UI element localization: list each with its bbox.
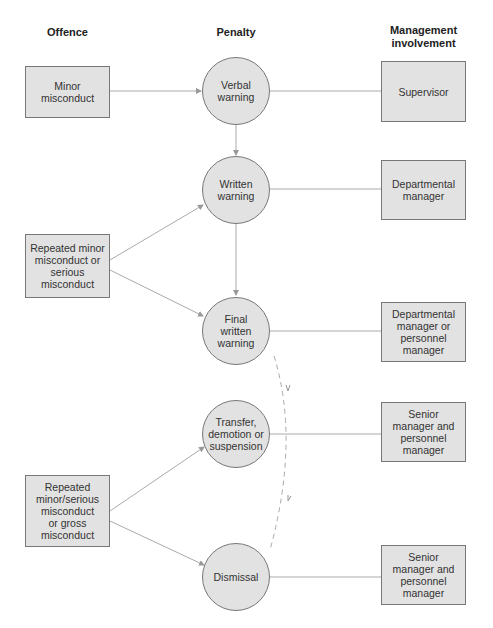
offence-minor: Minor misconduct [25,66,110,118]
offence-gross: Repeated minor/serious misconduct or gro… [25,475,110,547]
offence-repeated-serious: Repeated minor misconduct or serious mis… [25,234,110,298]
management-departmental: Departmental manager [381,160,466,220]
header-offence: Offence [25,26,110,39]
penalty-final-written-warning: Final written warning [202,297,270,365]
management-senior-personnel-2: Senior manager and personnel manager [381,545,466,605]
management-supervisor: Supervisor [381,61,466,122]
penalty-transfer-demotion-suspension: Transfer, demotion or suspension [202,400,270,468]
penalty-written-warning: Written warning [202,156,270,224]
header-penalty: Penalty [196,26,276,39]
management-senior-personnel-1: Senior manager and personnel manager [381,402,466,462]
penalty-verbal-warning: Verbal warning [202,57,270,125]
penalty-dismissal: Dismissal [202,543,270,611]
management-departmental-or-personnel: Departmental manager or personnel manage… [381,302,466,362]
header-management: Management involvement [376,24,471,50]
